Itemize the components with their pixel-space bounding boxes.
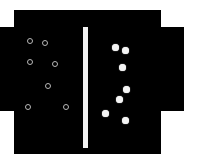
hollow-particle	[42, 40, 48, 46]
filled-particle	[123, 86, 130, 93]
filled-particle	[122, 47, 129, 54]
container-left-wing	[0, 27, 14, 111]
partition-barrier	[83, 27, 88, 148]
filled-particle	[116, 96, 123, 103]
filled-particle	[122, 117, 129, 124]
hollow-particle	[45, 83, 51, 89]
diagram-canvas	[0, 0, 198, 159]
hollow-particle	[27, 59, 33, 65]
hollow-particle	[25, 104, 31, 110]
hollow-particle	[52, 61, 58, 67]
container-right-wing	[161, 27, 184, 111]
filled-particle	[119, 64, 126, 71]
hollow-particle	[27, 38, 33, 44]
hollow-particle	[63, 104, 69, 110]
filled-particle	[102, 110, 109, 117]
filled-particle	[112, 44, 119, 51]
